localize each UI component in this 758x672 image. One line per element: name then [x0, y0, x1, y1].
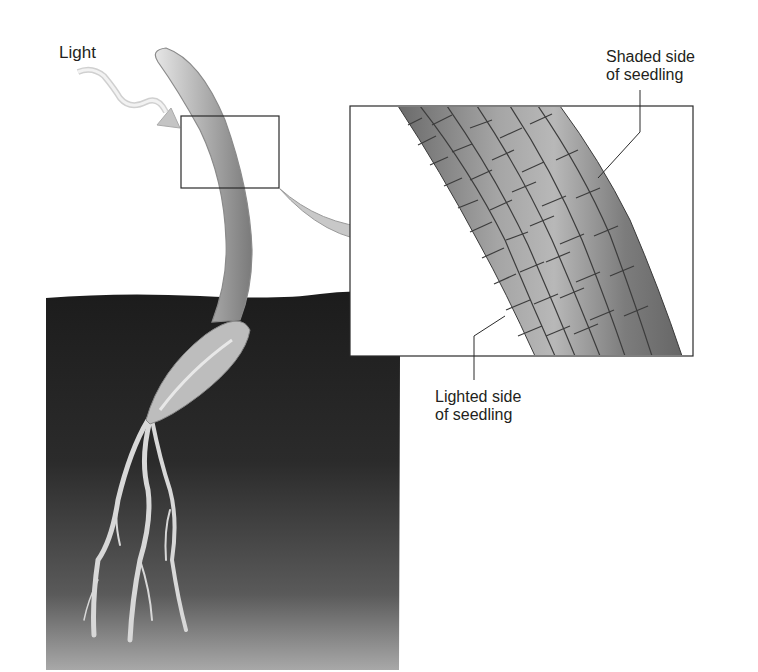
- magnified-tissue-panel: [350, 106, 693, 356]
- phototropism-diagram: [0, 0, 758, 672]
- lighted-side-label-line2: of seedling: [435, 406, 521, 424]
- seedling-stem: [155, 48, 252, 322]
- light-arrow-icon: [78, 70, 180, 128]
- shaded-side-label-line2: of seedling: [606, 66, 695, 84]
- lighted-side-label: Lighted side of seedling: [435, 388, 521, 424]
- shaded-side-label-line1: Shaded side: [606, 48, 695, 66]
- light-label: Light: [59, 44, 96, 62]
- lighted-side-label-line1: Lighted side: [435, 388, 521, 406]
- shaded-side-label: Shaded side of seedling: [606, 48, 695, 84]
